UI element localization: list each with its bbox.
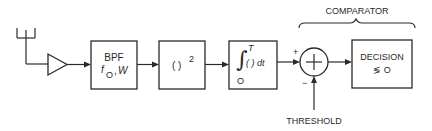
connector-summer-decision xyxy=(328,59,352,65)
comparator-label: COMPARATOR xyxy=(325,7,388,16)
squarer-label: ( ) xyxy=(172,61,181,71)
summer-plus-input-label: + xyxy=(293,48,298,57)
connector-bpf-squarer xyxy=(137,62,159,68)
decision-rule: ≶ O xyxy=(373,66,391,75)
bpf-center-frequency-subscript: O xyxy=(106,71,113,80)
squarer-block xyxy=(159,41,205,89)
connector-threshold-summer xyxy=(311,76,317,110)
summer-minus-input-label: − xyxy=(302,79,307,88)
squarer-exponent: 2 xyxy=(189,55,194,64)
bpf-center-frequency: f xyxy=(101,65,104,75)
bpf-bandwidth: W xyxy=(118,66,127,76)
bpf-param-separator: , xyxy=(114,66,117,76)
integral-lower-limit: O xyxy=(237,77,244,86)
amplifier-triangle-icon xyxy=(48,54,67,75)
connector-amp-bpf xyxy=(67,62,91,68)
integral-upper-limit: T xyxy=(248,44,254,53)
bpf-label: BPF xyxy=(104,53,123,63)
diagram-canvas xyxy=(0,0,432,131)
threshold-label: THRESHOLD xyxy=(286,117,342,126)
decision-block xyxy=(352,40,412,88)
connector-squarer-integrator xyxy=(205,62,229,68)
decision-label: DECISION xyxy=(360,53,404,62)
block-diagram: BPF f O , W ( ) 2 ∫ T O ( ) dt + − DECIS… xyxy=(0,0,432,131)
antenna-icon xyxy=(17,28,48,64)
comparator-brace xyxy=(299,19,415,28)
connector-integrator-summer xyxy=(277,59,300,65)
integrand: ( ) dt xyxy=(246,59,265,68)
